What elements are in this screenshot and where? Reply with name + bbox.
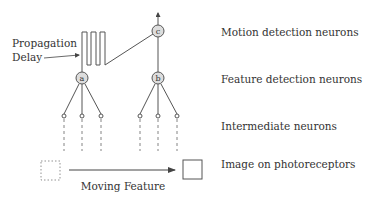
propagation-pointer-arrow	[44, 55, 79, 58]
propagation-delay-line	[82, 32, 153, 72]
motion-neuron-c: c	[152, 25, 164, 37]
photoreceptors-label: Image on photoreceptors	[221, 158, 355, 170]
propagation-label-line1: Propagation	[12, 37, 77, 49]
feature-detection-label: Feature detection neurons	[221, 73, 362, 85]
b-fan-connections	[140, 84, 177, 114]
node-c-label: c	[156, 27, 161, 36]
propagation-label-line2: Delay	[12, 51, 42, 63]
moving-feature-label: Moving Feature	[81, 180, 166, 192]
motion-detection-label: Motion detection neurons	[221, 26, 359, 38]
feature-neuron-b: b	[152, 72, 164, 84]
previous-feature-position	[41, 161, 60, 180]
motion-detection-diagram: c a b	[0, 0, 368, 203]
a-fan-connections	[64, 84, 101, 114]
intermediate-neurons-label: Intermediate neurons	[221, 120, 337, 132]
receptor-dashed-lines	[64, 119, 177, 151]
feature-neuron-a: a	[76, 72, 88, 84]
node-a-label: a	[80, 74, 85, 83]
node-b-label: b	[155, 74, 160, 83]
current-feature-position	[183, 160, 202, 179]
intermediate-neurons	[62, 114, 179, 118]
